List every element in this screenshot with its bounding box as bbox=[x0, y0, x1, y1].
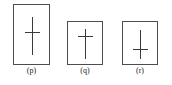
cross-stem bbox=[85, 29, 86, 59]
panel-r-caption: (r) bbox=[122, 66, 158, 75]
panel-q-box bbox=[67, 21, 103, 65]
cross-icon bbox=[123, 22, 157, 64]
cross-icon bbox=[14, 5, 49, 64]
cross-icon bbox=[68, 22, 102, 64]
cross-stem bbox=[32, 17, 33, 55]
panel-p-box bbox=[13, 4, 50, 65]
cross-stem bbox=[140, 30, 141, 59]
cross-bar bbox=[25, 32, 40, 33]
figure-three-boxed-crosses: (p) (q) (r) bbox=[0, 0, 172, 85]
panel-r-box bbox=[122, 21, 158, 65]
panel-p-caption: (p) bbox=[13, 66, 50, 75]
cross-bar bbox=[133, 49, 148, 50]
cross-bar bbox=[78, 36, 93, 37]
panel-q-caption: (q) bbox=[67, 66, 103, 75]
